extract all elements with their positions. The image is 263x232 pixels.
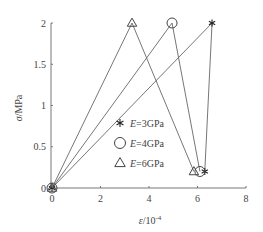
y-tick-label: 2 (41, 18, 46, 29)
legend: E=3GPaE=4GPaE=6GPa (115, 118, 165, 169)
y-tick-label: 0 (41, 183, 46, 194)
circle-marker (115, 138, 126, 149)
legend-item: E=4GPa (115, 138, 165, 149)
y-tick-label: 1.5 (34, 59, 47, 70)
x-tick-label: 8 (244, 193, 249, 204)
legend-label: E=4GPa (129, 138, 165, 149)
x-tick-label: 0 (50, 193, 55, 204)
series-line (52, 23, 200, 188)
series-circle (47, 18, 205, 193)
legend-label: E=3GPa (129, 118, 165, 129)
legend-item: E=3GPa (117, 118, 165, 129)
x-axis-label: ε/10-4 (139, 214, 162, 226)
y-tick-label: 0.5 (34, 141, 47, 152)
x-tick-label: 2 (98, 193, 103, 204)
triangle-marker (115, 158, 126, 167)
stress-strain-chart: 0246800.511.52 E=3GPaE=4GPaE=6GPa σ/MPa … (0, 0, 263, 232)
x-tick-label: 6 (195, 193, 200, 204)
legend-item: E=6GPa (115, 158, 165, 169)
y-axis-label: σ/MPa (13, 94, 24, 121)
y-tick-label: 1 (41, 100, 46, 111)
legend-label: E=6GPa (129, 158, 165, 169)
x-tick-label: 4 (147, 193, 152, 204)
